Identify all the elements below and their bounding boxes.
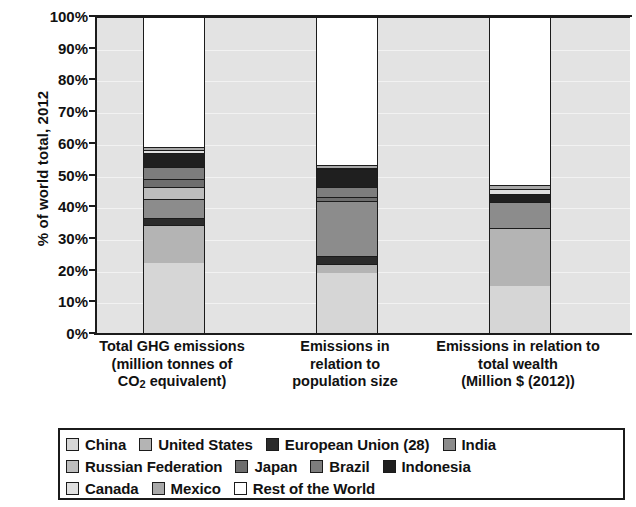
legend-swatch-icon — [443, 438, 456, 451]
legend-item[interactable]: European Union (28) — [266, 436, 430, 453]
legend-swatch-icon — [234, 482, 247, 495]
bar-segment[interactable] — [317, 264, 377, 273]
bar-segment[interactable] — [490, 194, 550, 202]
y-axis-tick-mark — [89, 142, 95, 144]
y-axis-tick-label: 10% — [58, 293, 88, 310]
y-axis-tick-mark — [89, 332, 95, 334]
bar-segment[interactable] — [317, 169, 377, 187]
legend-label: Indonesia — [402, 458, 471, 475]
y-axis-tick-label: 100% — [50, 8, 88, 25]
legend-label: Rest of the World — [253, 480, 375, 497]
legend-label: Brazil — [329, 458, 369, 475]
bar-segment[interactable] — [144, 167, 204, 178]
chart-container: % of world total, 2012 100%90%80%70%60%5… — [0, 0, 636, 507]
y-axis-tick-mark — [89, 269, 95, 271]
bar-segment[interactable] — [144, 199, 204, 218]
y-axis-tick-label: 50% — [58, 166, 88, 183]
y-axis-tick-mark — [89, 300, 95, 302]
bar-segment[interactable] — [144, 225, 204, 264]
legend-label: Russian Federation — [85, 458, 222, 475]
legend-item[interactable]: Russian Federation — [66, 458, 222, 475]
legend-label: Canada — [85, 480, 139, 497]
legend-swatch-icon — [66, 438, 79, 451]
legend-swatch-icon — [66, 482, 79, 495]
x-axis-line — [94, 333, 632, 335]
bar-segment[interactable] — [317, 17, 377, 165]
legend-item[interactable]: Canada — [66, 480, 139, 497]
legend-item[interactable]: Rest of the World — [234, 480, 375, 497]
bar-segment[interactable] — [144, 17, 204, 147]
y-axis-tick-mark — [89, 15, 95, 17]
bar-segment[interactable] — [144, 263, 204, 333]
y-axis-tick-labels: 100%90%80%70%60%50%40%30%20%10%0% — [30, 0, 88, 345]
bar-segment[interactable] — [490, 202, 550, 228]
y-axis-tick-mark — [89, 78, 95, 80]
bar-stack[interactable] — [143, 16, 205, 333]
y-axis-tick-label: 70% — [58, 103, 88, 120]
bar-segment[interactable] — [144, 187, 204, 199]
legend-label: United States — [158, 436, 253, 453]
legend-item[interactable]: India — [443, 436, 497, 453]
y-axis-tick-mark — [89, 174, 95, 176]
legend-item[interactable]: Japan — [235, 458, 297, 475]
legend-row: Russian FederationJapanBrazilIndonesia — [66, 456, 617, 477]
y-axis-tick-label: 90% — [58, 39, 88, 56]
legend-item[interactable]: Mexico — [152, 480, 221, 497]
bar-stack[interactable] — [316, 16, 378, 333]
legend-swatch-icon — [310, 460, 323, 473]
y-axis-tick-mark — [89, 47, 95, 49]
y-axis-tick-mark — [89, 110, 95, 112]
legend-label: China — [85, 436, 126, 453]
plot-area — [95, 16, 630, 333]
bar-stack[interactable] — [489, 16, 551, 333]
legend-label: Mexico — [171, 480, 221, 497]
y-axis-tick-label: 40% — [58, 198, 88, 215]
bar-segment[interactable] — [490, 17, 550, 185]
legend-label: India — [462, 436, 497, 453]
legend-swatch-icon — [383, 460, 396, 473]
y-axis-tick-mark — [89, 237, 95, 239]
legend-swatch-icon — [152, 482, 165, 495]
legend-row: ChinaUnited StatesEuropean Union (28)Ind… — [66, 434, 617, 455]
bar-segment[interactable] — [317, 273, 377, 333]
y-axis-tick-label: 30% — [58, 229, 88, 246]
legend-swatch-icon — [235, 460, 248, 473]
bar-segment[interactable] — [317, 201, 377, 256]
bar-segment[interactable] — [144, 218, 204, 225]
bar-segment[interactable] — [317, 187, 377, 197]
chart-legend: ChinaUnited StatesEuropean Union (28)Ind… — [58, 428, 625, 500]
legend-swatch-icon — [139, 438, 152, 451]
legend-label: European Union (28) — [285, 436, 430, 453]
y-axis-tick-label: 20% — [58, 261, 88, 278]
legend-swatch-icon — [266, 438, 279, 451]
bar-segment[interactable] — [144, 153, 204, 168]
x-axis-label: Emissions in relation tototal wealth(Mil… — [378, 338, 636, 391]
legend-row: CanadaMexicoRest of the World — [66, 478, 617, 499]
legend-item[interactable]: China — [66, 436, 126, 453]
bar-segment[interactable] — [490, 286, 550, 333]
legend-item[interactable]: Indonesia — [383, 458, 471, 475]
y-axis-tick-label: 80% — [58, 71, 88, 88]
y-axis-tick-mark — [89, 205, 95, 207]
y-axis-tick-label: 60% — [58, 134, 88, 151]
legend-item[interactable]: United States — [139, 436, 253, 453]
legend-swatch-icon — [66, 460, 79, 473]
bar-segment[interactable] — [317, 256, 377, 264]
legend-label: Japan — [254, 458, 297, 475]
bar-segment[interactable] — [490, 228, 550, 286]
bar-segment[interactable] — [144, 179, 204, 187]
legend-item[interactable]: Brazil — [310, 458, 369, 475]
